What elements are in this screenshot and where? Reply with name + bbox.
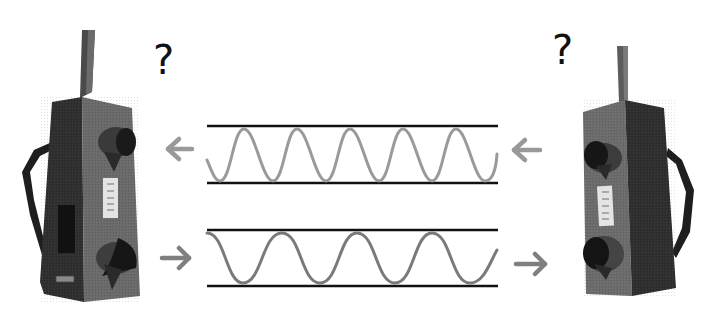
diagram-canvas	[0, 0, 716, 324]
arrow-left-top-icon	[168, 139, 192, 159]
right-walkie-talkie	[583, 46, 694, 296]
top-channel	[207, 126, 498, 183]
arrow-right-top-icon	[514, 140, 540, 160]
left-base-plate	[56, 276, 74, 282]
arrow-right-bottom-icon	[516, 254, 545, 274]
left-walkie-talkie	[22, 30, 140, 302]
bottom-channel	[207, 230, 498, 286]
top-channel-wave	[207, 129, 497, 181]
left-side-screen	[58, 205, 75, 253]
right-question-mark: ?	[552, 30, 573, 70]
bottom-channel-wave	[207, 233, 497, 283]
arrow-left-bottom-icon	[162, 248, 189, 268]
left-question-mark: ?	[153, 40, 174, 80]
